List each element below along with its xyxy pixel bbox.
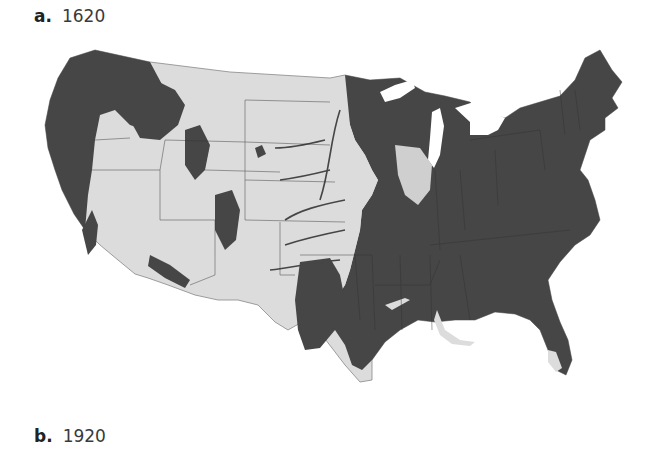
us-forest-map-1620 (0, 30, 664, 420)
panel-b-label: b. 1920 (34, 426, 106, 446)
panel-a-year: 1620 (62, 6, 105, 26)
forest-eastern-region (328, 50, 622, 375)
panel-a-label: a. 1620 (34, 6, 105, 26)
panel-b-letter: b. (34, 426, 53, 446)
panel-a-letter: a. (34, 6, 52, 26)
panel-b-year: 1920 (63, 426, 106, 446)
